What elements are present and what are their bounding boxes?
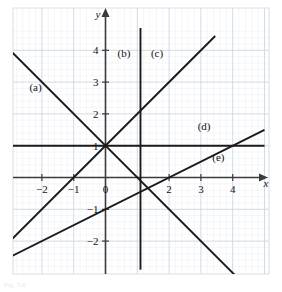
coordinate-plane-chart: −2−10234−2−11234 (a)(b)(c)(d)(e) x y bbox=[0, 0, 282, 292]
series-label-b: (b) bbox=[118, 47, 131, 60]
figure-container: −2−10234−2−11234 (a)(b)(c)(d)(e) x y Fig… bbox=[0, 0, 282, 292]
x-tick-label: 2 bbox=[166, 183, 172, 195]
x-axis-label: x bbox=[263, 177, 269, 189]
series-label-a: (a) bbox=[29, 81, 42, 94]
series-label-d: (d) bbox=[198, 120, 211, 133]
y-axis-label: y bbox=[95, 8, 101, 20]
y-tick-label: 2 bbox=[93, 108, 99, 120]
x-tick-label: −1 bbox=[68, 183, 80, 195]
figure-caption: Fig. 5.6 bbox=[4, 281, 26, 289]
y-tick-label: −2 bbox=[87, 235, 99, 247]
y-tick-label: 4 bbox=[93, 44, 99, 56]
x-tick-label: 4 bbox=[230, 183, 236, 195]
x-tick-label: 3 bbox=[198, 183, 204, 195]
series-label-e: (e) bbox=[212, 151, 225, 164]
x-tick-label: 0 bbox=[103, 183, 109, 195]
series-label-c: (c) bbox=[151, 47, 164, 60]
y-tick-label: 3 bbox=[93, 76, 99, 88]
x-tick-label: −2 bbox=[36, 183, 48, 195]
